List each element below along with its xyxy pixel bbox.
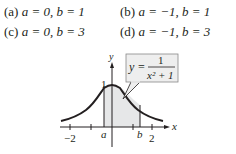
y-axis-arrow-icon — [110, 62, 114, 68]
callout-pointer — [123, 82, 140, 99]
y-axis-label: y — [108, 51, 114, 62]
function-label: y = — [128, 60, 145, 74]
numerator: 1 — [158, 54, 164, 66]
graph: y = 1 x² + 1 x y 1 −2 2 a b — [0, 0, 236, 154]
y-tick-label: 1 — [101, 78, 107, 90]
denominator: x² + 1 — [146, 69, 174, 81]
x-axis-arrow-icon — [164, 125, 170, 129]
a-label: a — [101, 128, 107, 140]
x-tick-label-2: 2 — [149, 132, 155, 144]
x-axis-label: x — [171, 120, 177, 132]
b-label: b — [137, 128, 143, 140]
x-tick-label-neg2: −2 — [64, 132, 76, 144]
